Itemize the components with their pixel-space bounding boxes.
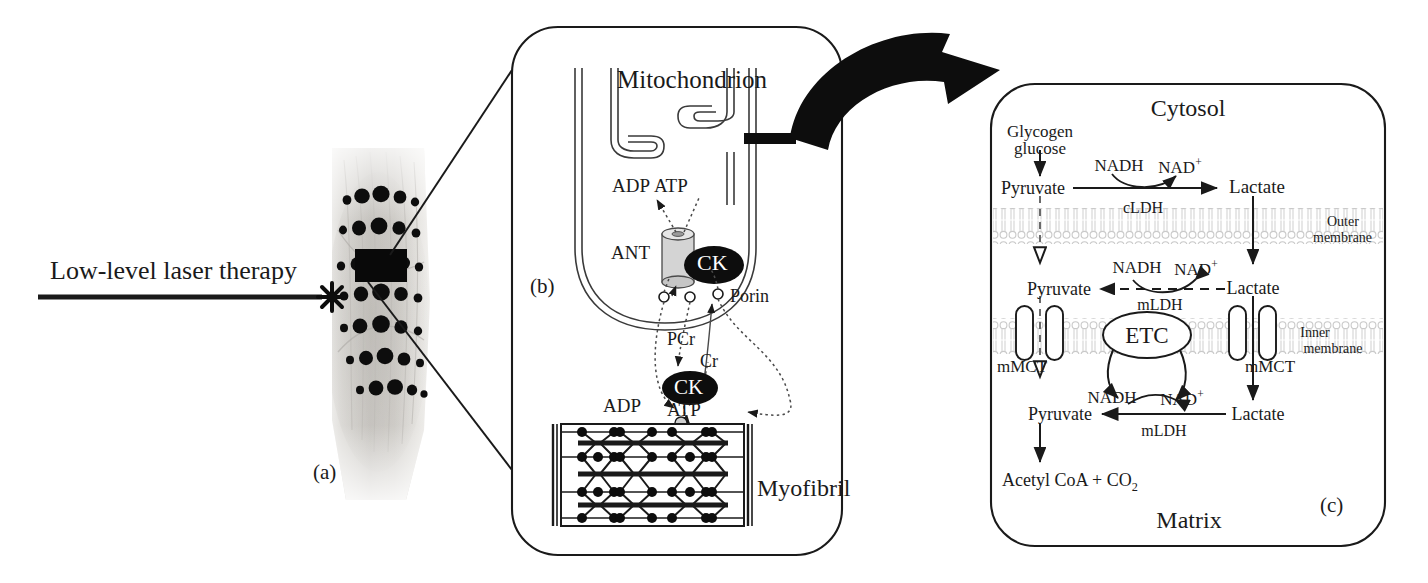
cytosol-pyruvate-label: Pyruvate xyxy=(1001,179,1065,197)
intermembrane-pyruvate-label: Pyruvate xyxy=(1027,280,1091,298)
cytosol-nadh-label: NADH xyxy=(1094,157,1143,174)
figure-root: Low-level laser therapy (a) Mitochondrio… xyxy=(0,0,1428,583)
mmct-left-label: mMCT xyxy=(997,358,1047,375)
porin-label: Porin xyxy=(730,287,769,305)
matrix-label: Matrix xyxy=(1156,508,1221,532)
matrix-pyruvate-label: Pyruvate xyxy=(1028,405,1092,423)
intermembrane-nad-label: NAD+ xyxy=(1174,259,1217,278)
intermembrane-nadh-label: NADH xyxy=(1112,259,1161,276)
lllt-label: Low-level laser therapy xyxy=(50,258,297,284)
mmct-right-label: mMCT xyxy=(1245,358,1295,375)
outer-membrane-label-1: Outer xyxy=(1327,215,1359,229)
intermembrane-mldh-label: mLDH xyxy=(1137,297,1182,313)
ck-mito-label: CK xyxy=(697,252,728,274)
laser-beam xyxy=(38,283,346,311)
inner-membrane-label-1: Inner xyxy=(1300,326,1330,340)
cldh-label: cLDH xyxy=(1123,200,1163,216)
intermembrane-lactate-label: Lactate xyxy=(1227,279,1280,297)
atp-bottom-label: ATP xyxy=(667,400,701,419)
cytosol-label: Cytosol xyxy=(1151,96,1226,120)
myofibril-label: Myofibril xyxy=(757,476,850,500)
panel-a-photo xyxy=(326,140,436,506)
glycogen-label: Glycogen xyxy=(1007,123,1073,140)
glucose-label: glucose xyxy=(1014,140,1066,157)
panel-a-tag: (a) xyxy=(313,462,336,483)
outer-membrane-label-2: membrane xyxy=(1313,231,1372,245)
etc-nadh-label: NADH xyxy=(1087,389,1136,406)
etc-label: ETC xyxy=(1125,324,1168,347)
adp-top-label: ADP xyxy=(612,176,650,195)
atp-top-label: ATP xyxy=(654,176,688,195)
mitochondrion-title: Mitochondrion xyxy=(617,67,767,92)
matrix-mldh-label: mLDH xyxy=(1141,423,1186,439)
laser-entry-port xyxy=(744,133,796,144)
acetyl-coa-label: Acetyl CoA + CO2 xyxy=(1002,471,1138,493)
panel-b-tag: (b) xyxy=(530,276,555,297)
ck-myo-label: CK xyxy=(674,377,703,398)
ant-label: ANT xyxy=(611,243,650,262)
cr-label: Cr xyxy=(700,352,718,370)
treatment-site-patch xyxy=(355,249,407,282)
myofibril-diagram xyxy=(553,424,752,526)
pcr-label: PCr xyxy=(667,330,695,348)
panel-c-tag: (c) xyxy=(1320,495,1343,516)
cytosol-lactate-label: Lactate xyxy=(1229,177,1285,196)
matrix-lactate-label: Lactate xyxy=(1232,405,1285,423)
etc-nad-label: NAD+ xyxy=(1160,389,1203,408)
inner-membrane-label-2: membrane xyxy=(1303,342,1362,356)
adp-bottom-label: ADP xyxy=(603,396,641,415)
cytosol-nad-label: NAD+ xyxy=(1158,157,1201,176)
